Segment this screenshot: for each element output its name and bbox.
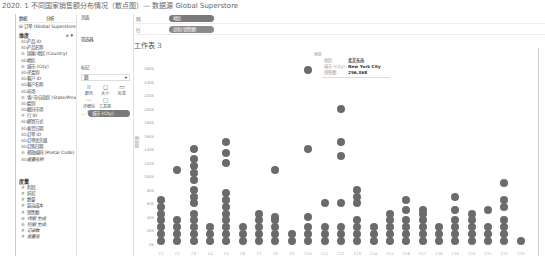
scatter-point[interactable] (321, 199, 329, 207)
scatter-point[interactable] (353, 186, 361, 194)
scatter-point[interactable] (255, 230, 263, 238)
scatter-point[interactable] (190, 230, 198, 238)
scatter-point[interactable] (337, 105, 345, 113)
columns-shelf[interactable]: 列 地区 (134, 14, 545, 24)
scatter-point[interactable] (517, 237, 525, 245)
scatter-point[interactable] (419, 230, 427, 238)
detail-button[interactable]: ⋯详细信息 (81, 96, 97, 108)
scatter-point[interactable] (370, 223, 378, 231)
scatter-point[interactable] (173, 216, 181, 224)
scatter-point[interactable] (271, 166, 279, 174)
search-icon[interactable]: ⌕ ▾ (66, 31, 73, 39)
scatter-point[interactable] (419, 223, 427, 231)
scatter-point[interactable] (435, 230, 443, 238)
scatter-point[interactable] (304, 145, 312, 153)
rows-pill[interactable]: 总和(销售额) (169, 26, 214, 33)
scatter-point[interactable] (271, 223, 279, 231)
scatter-point[interactable] (255, 223, 263, 231)
scatter-point[interactable] (173, 230, 181, 238)
scatter-point[interactable] (500, 216, 508, 224)
scatter-point[interactable] (468, 230, 476, 238)
filters-drop-area[interactable] (78, 44, 133, 64)
scatter-point[interactable] (222, 159, 230, 167)
scatter-point[interactable] (222, 189, 230, 197)
scatter-point[interactable] (402, 230, 410, 238)
scatter-point[interactable] (206, 223, 214, 231)
scatter-point[interactable] (222, 149, 230, 157)
scatter-point[interactable] (451, 230, 459, 238)
field-item[interactable]: #度量值 (16, 234, 76, 240)
scatter-point[interactable] (468, 223, 476, 231)
scatter-point[interactable] (255, 210, 263, 218)
scatter-point[interactable] (337, 223, 345, 231)
scatter-point[interactable] (419, 206, 427, 214)
scatter-point[interactable] (386, 223, 394, 231)
scatter-point[interactable] (239, 230, 247, 238)
data-source[interactable]: ⛁ 订单 (Global Superstore) (16, 23, 76, 31)
scatter-point[interactable] (304, 213, 312, 221)
scatter-point[interactable] (402, 196, 410, 204)
scatter-point[interactable] (353, 216, 361, 224)
scatter-point[interactable] (500, 230, 508, 238)
scatter-point[interactable] (222, 230, 230, 238)
scatter-point[interactable] (451, 223, 459, 231)
scatter-point[interactable] (435, 223, 443, 231)
scatter-point[interactable] (190, 169, 198, 177)
scatter-point[interactable] (353, 223, 361, 231)
scatter-point[interactable] (468, 210, 476, 218)
scatter-point[interactable] (222, 138, 230, 146)
scatter-point[interactable] (500, 179, 508, 187)
scatter-point[interactable] (190, 162, 198, 170)
size-button[interactable]: ◻大小 (98, 83, 114, 95)
scatter-point[interactable] (386, 230, 394, 238)
tab-analysis[interactable]: 分析 (46, 15, 73, 21)
scatter-point[interactable] (304, 66, 312, 74)
scatter-point[interactable] (222, 223, 230, 231)
tab-data[interactable]: 数据 (19, 15, 46, 21)
scatter-point[interactable] (386, 210, 394, 218)
rows-shelf[interactable]: 行 总和(销售额) (134, 25, 545, 35)
scatter-point[interactable] (402, 223, 410, 231)
scatter-point[interactable] (190, 223, 198, 231)
tooltip-button[interactable]: ▢工具提示 (98, 96, 114, 108)
scatter-point[interactable] (451, 206, 459, 214)
scatter-point[interactable] (271, 230, 279, 238)
scatter-point[interactable] (206, 230, 214, 238)
scatter-point[interactable] (288, 230, 296, 238)
scatter-point[interactable] (337, 152, 345, 160)
scatter-point[interactable] (402, 206, 410, 214)
scatter-point[interactable] (402, 216, 410, 224)
scatter-point[interactable] (304, 230, 312, 238)
scatter-point[interactable] (370, 230, 378, 238)
color-button[interactable]: ⁞⁞颜色 (81, 83, 97, 95)
pages-drop-area[interactable] (78, 22, 133, 36)
mark-type-dropdown[interactable]: 圆▾ (81, 74, 130, 81)
scatter-point[interactable] (484, 223, 492, 231)
scatter-point[interactable] (157, 230, 165, 238)
detail-pill-city[interactable]: 城市 (City) (88, 110, 130, 117)
scatter-point[interactable] (157, 223, 165, 231)
scatter-point[interactable] (157, 196, 165, 204)
scatter-point[interactable] (500, 196, 508, 204)
scatter-point[interactable] (451, 193, 459, 201)
scatter-point[interactable] (500, 223, 508, 231)
scatter-point[interactable] (321, 223, 329, 231)
scatter-point[interactable] (484, 206, 492, 214)
columns-pill[interactable]: 地区 (169, 15, 214, 22)
scatter-point[interactable] (173, 166, 181, 174)
scatter-point[interactable] (304, 223, 312, 231)
scatter-point[interactable] (321, 230, 329, 238)
scatter-point[interactable] (173, 223, 181, 231)
scatter-point[interactable] (190, 145, 198, 153)
scatter-point[interactable] (190, 186, 198, 194)
scatter-point[interactable] (337, 138, 345, 146)
scatter-point[interactable] (222, 196, 230, 204)
label-button[interactable]: ▭标签 (114, 83, 130, 95)
scatter-point[interactable] (190, 210, 198, 218)
scatter-point[interactable] (484, 230, 492, 238)
scatter-point[interactable] (337, 230, 345, 238)
scatter-point[interactable] (337, 199, 345, 207)
scatter-point[interactable] (353, 230, 361, 238)
scatter-point[interactable] (239, 223, 247, 231)
scatter-point[interactable] (451, 216, 459, 224)
